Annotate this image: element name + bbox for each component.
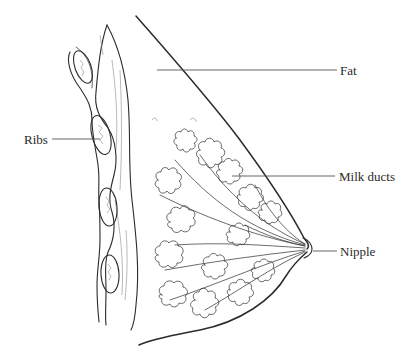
label-nipple: Nipple xyxy=(340,245,375,258)
label-fat: Fat xyxy=(340,64,357,77)
glandular-lobules xyxy=(152,118,282,318)
breast-anatomy-diagram: Fat Ribs Milk ducts Nipple xyxy=(0,0,420,357)
label-ribs: Ribs xyxy=(24,133,48,146)
label-milk-ducts: Milk ducts xyxy=(339,170,395,183)
breast-outline xyxy=(136,16,308,345)
